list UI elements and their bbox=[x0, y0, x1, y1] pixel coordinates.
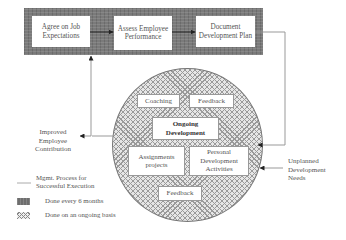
legend-hatch-swatch bbox=[17, 212, 30, 219]
legend-ongoing-label: Done on an ongoing basis bbox=[45, 211, 116, 219]
legend-mgmt-process-label: Mgmt. Process for Successful Execution bbox=[36, 174, 116, 190]
unplanned-development-needs-label: Unplanned Development Needs bbox=[288, 157, 338, 183]
legend-six-months-label: Done every 6 months bbox=[45, 197, 103, 205]
arrow-plan-to-circle bbox=[255, 32, 285, 145]
improved-employee-contribution-label: Improved Employee Contribution bbox=[28, 128, 78, 154]
legend-gray-swatch bbox=[17, 198, 30, 205]
